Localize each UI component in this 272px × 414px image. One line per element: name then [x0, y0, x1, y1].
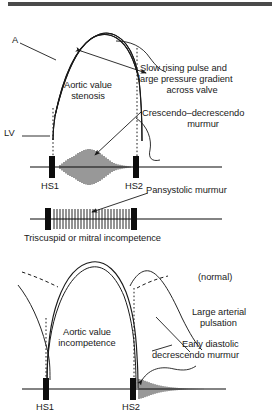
annotation-crescendo-line2: murmur	[142, 119, 264, 130]
label-left-ventricle: LV	[4, 128, 15, 139]
normal-reference-dash-right	[137, 276, 168, 288]
annotation-large-arterial-line1: Large arterial	[192, 307, 246, 318]
annotation-pansystolic-murmur: Pansystolic murmur	[146, 185, 227, 196]
normal-aortic-contour	[18, 285, 50, 380]
hs2-bar-3	[130, 378, 136, 400]
label-aorta: A	[12, 35, 18, 46]
label-hs2-panel3: HS2	[122, 402, 140, 413]
annotation-slow-rising-line1: Slow rising pulse and	[140, 63, 227, 74]
panel-tricuspid-mitral-incompetence	[30, 193, 222, 230]
hs1-bar-1	[49, 156, 55, 178]
hs2-bar-1	[133, 156, 139, 178]
label-hs2-panel1: HS2	[125, 181, 143, 192]
early-diastolic-decrescendo-murmur	[139, 379, 203, 399]
caption-aortic-incompetence-line1: Aortic value	[48, 327, 126, 338]
leader-a-label	[20, 43, 56, 60]
caption-aortic-incompetence-line2: incompetence	[45, 338, 129, 349]
annotation-normal: (normal)	[198, 272, 232, 283]
annotation-crescendo-line1: Crescendo–decrescendo	[142, 108, 244, 119]
caption-tricuspid-mitral: Triscuspid or mitral incompetence	[24, 233, 161, 244]
annotation-early-diastolic-line1: Early diastolic	[182, 339, 239, 350]
leader-crescendo	[95, 112, 141, 155]
leader-slow-rising	[81, 51, 146, 73]
label-hs1-panel1: HS1	[41, 181, 59, 192]
caption-aortic-stenosis-line1: Aortic value	[52, 80, 124, 91]
leader-early-diastolic-curve	[142, 366, 196, 380]
caption-aortic-stenosis-line2: stenosis	[52, 91, 124, 102]
annotation-slow-rising-line3: across valve	[138, 85, 246, 96]
normal-reference-dash-left	[22, 272, 58, 287]
label-hs1-panel3: HS1	[36, 402, 54, 413]
annotation-early-diastolic-line2: decrescendo murmur	[152, 350, 239, 361]
annotation-slow-rising-line2: large pressure gradient	[138, 74, 232, 85]
annotation-large-arterial-line2: pulsation	[200, 318, 237, 329]
hs1-bar-3	[43, 378, 49, 400]
hs1-bar-2	[45, 208, 51, 230]
aortic-incompetence-curve	[47, 262, 138, 388]
hs2-bar-2	[131, 208, 137, 230]
